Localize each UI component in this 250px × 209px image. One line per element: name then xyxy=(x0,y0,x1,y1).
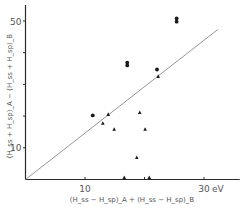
triangle-point xyxy=(122,175,126,179)
triangle-point xyxy=(135,155,139,159)
y-axis-label: (H_ss + H_sp)_A − (H_ss + H_sp)_B xyxy=(6,34,14,158)
circle-point xyxy=(175,20,179,24)
x-axis-label: (H_ss − H_sp)_A + (H_ss − H_sp)_B xyxy=(70,196,194,204)
y-tick-label: 50 xyxy=(10,17,22,27)
ticks: 10301050 xyxy=(10,17,210,194)
axes xyxy=(26,5,240,180)
reference-line xyxy=(26,30,218,180)
triangle-point xyxy=(112,127,116,131)
circle-point xyxy=(125,63,129,67)
data-points xyxy=(91,17,179,179)
triangle-point xyxy=(143,127,147,131)
x-tick-label: 30 xyxy=(198,184,210,194)
scatter-chart: 10301050 eV (H_ss − H_sp)_A + (H_ss − H_… xyxy=(0,0,250,209)
reference-line-group xyxy=(26,30,218,180)
triangle-point xyxy=(147,175,151,179)
triangle-point xyxy=(138,110,142,114)
x-unit-label: eV xyxy=(212,184,225,194)
circle-point xyxy=(155,68,159,72)
triangle-point xyxy=(101,121,105,125)
circle-point xyxy=(91,114,95,118)
x-tick-label: 10 xyxy=(79,184,91,194)
